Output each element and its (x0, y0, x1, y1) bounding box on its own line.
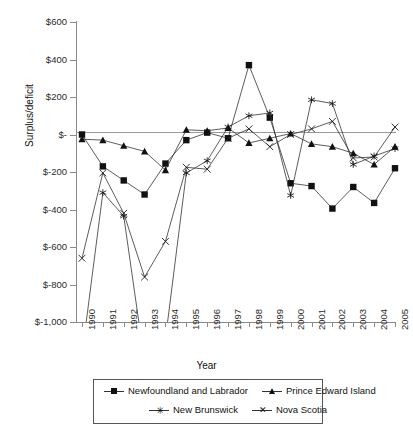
data-point-square (392, 165, 398, 171)
series-newfoundland-and-labrador (79, 62, 398, 212)
legend-marker-x-icon: ✕ (252, 405, 272, 415)
data-point-x (141, 274, 148, 281)
data-point-x (79, 255, 86, 262)
x-axis-title: Year (0, 360, 413, 371)
legend-item[interactable]: Newfoundland and Labrador (104, 385, 248, 396)
data-point-asterisk (308, 96, 315, 103)
data-point-square (141, 191, 147, 197)
data-point-x (99, 170, 106, 177)
data-point-square (100, 163, 106, 169)
data-point-triangle (308, 140, 315, 147)
data-point-x (392, 124, 399, 131)
legend-marker-square-icon (104, 386, 124, 396)
data-point-asterisk (350, 161, 357, 168)
data-point-asterisk (204, 157, 211, 164)
data-point-square (308, 183, 314, 189)
data-point-x (329, 118, 336, 125)
data-point-square (350, 184, 356, 190)
legend-label: Newfoundland and Labrador (128, 385, 248, 396)
legend-item[interactable]: Prince Edward Island (262, 385, 376, 396)
legend-label: New Brunswick (173, 404, 238, 415)
legend-item[interactable]: ✳New Brunswick (149, 404, 238, 415)
legend-label: Nova Scotia (276, 404, 327, 415)
data-point-square (371, 200, 377, 206)
data-point-asterisk (287, 192, 294, 199)
data-point-asterisk (329, 100, 336, 107)
data-point-square (329, 205, 335, 211)
legend-label: Prince Edward Island (286, 385, 376, 396)
data-point-x (246, 125, 253, 132)
data-point-square (183, 137, 189, 143)
legend-marker-triangle-icon (262, 386, 282, 396)
chart-container: Surplus/deficit $600$400$200$-$-200$-400… (0, 0, 413, 435)
data-point-x (162, 238, 169, 245)
data-point-square (121, 177, 127, 183)
legend-item[interactable]: ✕Nova Scotia (252, 404, 327, 415)
chart-legend: Newfoundland and LabradorPrince Edward I… (93, 379, 323, 424)
series-nova-scotia (79, 118, 399, 280)
data-point-square (246, 62, 252, 68)
data-point-x (308, 125, 315, 132)
legend-marker-asterisk-icon: ✳ (149, 405, 169, 415)
data-point-x (266, 143, 273, 150)
